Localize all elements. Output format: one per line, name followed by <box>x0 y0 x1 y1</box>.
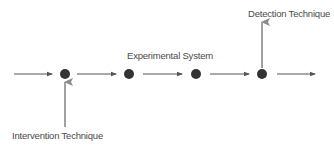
diagram-graphics <box>0 0 334 150</box>
experimental-system-label: Experimental System <box>127 50 213 61</box>
detection-technique-label: Detection Technique <box>248 8 330 19</box>
node-2 <box>124 69 134 79</box>
node-1 <box>60 69 70 79</box>
diagram-canvas: Experimental System Intervention Techniq… <box>0 0 334 150</box>
node-3 <box>191 69 201 79</box>
node-4 <box>257 69 267 79</box>
intervention-technique-label: Intervention Technique <box>12 130 103 141</box>
